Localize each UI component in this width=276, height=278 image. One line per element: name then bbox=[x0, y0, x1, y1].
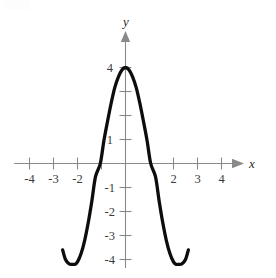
graph-figure: -4 -3 -2 2 3 4 4 1 -1 -2 -3 -4 x y bbox=[0, 0, 276, 278]
y-axis-label: y bbox=[121, 14, 129, 29]
y-tick-label--3: -3 bbox=[105, 229, 115, 243]
y-axis-arrowhead bbox=[121, 31, 130, 42]
y-tick-label--4: -4 bbox=[105, 253, 116, 267]
y-tick-label--1: -1 bbox=[105, 181, 115, 195]
y-tick-label-4: 4 bbox=[107, 61, 114, 75]
coordinate-plane-chart: -4 -3 -2 2 3 4 4 1 -1 -2 -3 -4 x y bbox=[0, 0, 276, 278]
x-tick-label--4: -4 bbox=[24, 172, 35, 186]
y-tick-label-1: 1 bbox=[107, 133, 113, 147]
x-tick-label-3: 3 bbox=[194, 172, 200, 186]
x-tick-label-2: 2 bbox=[170, 172, 176, 186]
x-axis-arrowhead bbox=[232, 159, 244, 168]
x-tick-label-4: 4 bbox=[218, 172, 225, 186]
x-axis-label: x bbox=[248, 156, 255, 171]
y-tick-label--2: -2 bbox=[105, 205, 115, 219]
x-tick-label--3: -3 bbox=[48, 172, 58, 186]
page-edge-artifact bbox=[4, 1, 30, 10]
x-tick-label--2: -2 bbox=[72, 172, 82, 186]
